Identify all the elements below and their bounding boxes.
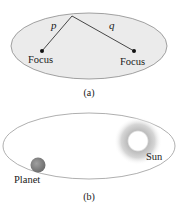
kepler-ellipse-diagram: p q Focus Focus (a) Sun Planet (b) <box>0 0 179 206</box>
planet <box>31 158 46 173</box>
focus-point-right <box>132 49 136 53</box>
sun-label: Sun <box>146 151 163 162</box>
planet-label: Planet <box>14 174 40 185</box>
label-q: q <box>109 19 115 31</box>
label-p: p <box>50 19 57 31</box>
focus-point-left <box>40 49 44 53</box>
focus-label-left: Focus <box>28 54 53 65</box>
caption-b: (b) <box>83 191 95 203</box>
panel-b: Sun Planet (b) <box>3 113 175 203</box>
focus-label-right: Focus <box>120 56 145 67</box>
caption-a: (a) <box>83 87 94 99</box>
sun-core <box>130 133 147 150</box>
ellipse-a <box>11 13 167 79</box>
panel-a: p q Focus Focus (a) <box>11 13 167 99</box>
